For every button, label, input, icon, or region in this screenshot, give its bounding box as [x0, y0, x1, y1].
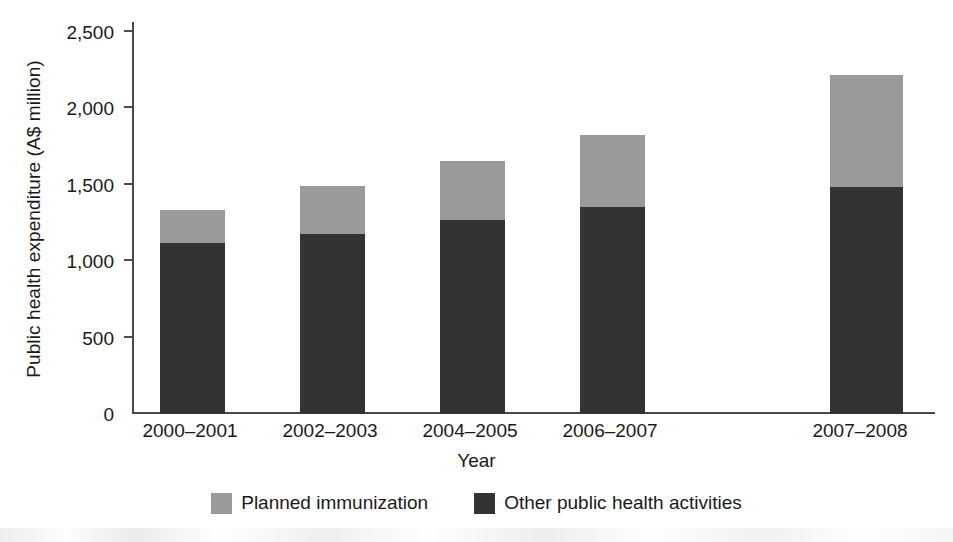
- x-axis-title: Year: [0, 450, 953, 472]
- bar-segment-other-activities[interactable]: [300, 234, 365, 414]
- legend-entry-other-public-health-activities[interactable]: Other public health activities: [474, 492, 742, 514]
- y-tick-label-2000: 2,000: [0, 98, 124, 120]
- chart-legend: Planned immunization Other public health…: [0, 492, 953, 514]
- bar-segment-immunization[interactable]: [160, 210, 225, 243]
- bar-segment-other-activities[interactable]: [830, 187, 903, 414]
- legend-label-other-public-health-activities: Other public health activities: [504, 492, 742, 514]
- y-axis-title: Public health expenditure (A$ million): [23, 19, 45, 419]
- legend-entry-planned-immunization[interactable]: Planned immunization: [211, 492, 428, 514]
- bar-2004-2005[interactable]: [440, 161, 505, 414]
- legend-swatch-icon-immunization: [211, 493, 232, 514]
- y-tick-mark-1000: [124, 259, 132, 261]
- bar-segment-immunization[interactable]: [830, 75, 903, 187]
- bar-segment-immunization[interactable]: [440, 161, 505, 220]
- y-tick-label-500: 500: [0, 328, 124, 350]
- y-tick-mark-500: [124, 336, 132, 338]
- y-tick-mark-2000: [124, 106, 132, 108]
- y-tick-label-1000: 1,000: [0, 251, 124, 273]
- bar-2007-2008[interactable]: [830, 75, 903, 414]
- y-tick-mark-2500: [124, 30, 132, 32]
- scan-artifact-band: [0, 528, 953, 542]
- bar-2000-2001[interactable]: [160, 210, 225, 414]
- bar-segment-other-activities[interactable]: [440, 220, 505, 414]
- bar-segment-other-activities[interactable]: [160, 243, 225, 414]
- bar-segment-immunization[interactable]: [580, 135, 645, 207]
- bar-chart-figure: Public health expenditure (A$ million) 2…: [0, 0, 953, 542]
- x-tick-label-2006-2007: 2006–2007: [510, 420, 710, 442]
- y-tick-mark-1500: [124, 183, 132, 185]
- bar-2006-2007[interactable]: [580, 135, 645, 414]
- legend-label-planned-immunization: Planned immunization: [241, 492, 428, 514]
- bar-2002-2003[interactable]: [300, 186, 365, 414]
- bar-segment-immunization[interactable]: [300, 186, 365, 234]
- legend-swatch-icon-other-activities: [474, 493, 495, 514]
- y-tick-label-1500: 1,500: [0, 175, 124, 197]
- bar-segment-other-activities[interactable]: [580, 207, 645, 414]
- x-tick-label-2007-2008: 2007–2008: [760, 420, 953, 442]
- y-tick-label-2500: 2,500: [0, 22, 124, 44]
- plot-area: [132, 22, 935, 414]
